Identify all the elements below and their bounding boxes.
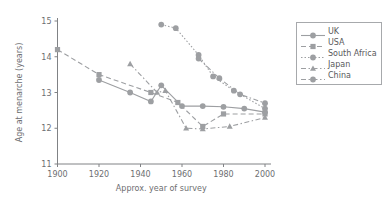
legend-item-label: UK <box>326 26 339 37</box>
x-tick-label: 2000 <box>255 170 275 179</box>
series-point <box>173 25 179 31</box>
series-point <box>241 106 247 112</box>
legend-item-japan[interactable]: Japan <box>300 59 377 70</box>
legend-marker <box>310 77 316 83</box>
series-china <box>196 56 268 106</box>
series-point <box>210 74 216 80</box>
x-tick-label: 1980 <box>213 170 233 179</box>
x-tick-label: 1960 <box>172 170 192 179</box>
legend-key-circle-icon <box>300 48 326 59</box>
legend-item-label: USA <box>326 37 345 48</box>
y-tick-label: 13 <box>41 89 51 98</box>
series-line <box>199 59 265 104</box>
series-point <box>227 123 233 128</box>
y-tick-label: 14 <box>41 53 51 62</box>
series-point <box>221 111 226 116</box>
y-axis-ticks: 1112131415 <box>41 17 57 169</box>
series-south-africa <box>158 22 268 112</box>
x-axis-ticks: 190019201940196019802000 <box>47 164 275 179</box>
series-point <box>158 22 164 28</box>
series-point <box>175 100 180 105</box>
series-japan <box>127 61 268 131</box>
x-tick-label: 1920 <box>89 170 109 179</box>
series-point <box>262 100 268 106</box>
series-point <box>148 90 153 95</box>
legend-item-usa[interactable]: USA <box>300 37 377 48</box>
series-point <box>162 88 168 93</box>
legend-item-label: China <box>326 70 351 81</box>
legend-item-label: Japan <box>326 59 350 70</box>
legend-item-uk[interactable]: UK <box>300 26 377 37</box>
legend-key-triangle-icon <box>300 59 326 70</box>
y-axis-title: Age at menarche (years) <box>15 43 24 143</box>
legend-key-square-icon <box>300 37 326 48</box>
legend-key-circle-icon <box>300 70 326 81</box>
y-tick-label: 12 <box>41 124 51 133</box>
x-axis-title: Approx. year of survey <box>116 184 207 193</box>
series-point <box>96 77 102 83</box>
x-tick-label: 1900 <box>47 170 67 179</box>
series-point <box>237 91 243 97</box>
series-point <box>262 106 268 112</box>
x-tick-label: 1940 <box>130 170 150 179</box>
series-point <box>55 47 60 52</box>
y-tick-label: 15 <box>41 17 51 26</box>
legend-item-china[interactable]: China <box>300 70 377 81</box>
series-point <box>200 103 206 109</box>
series-point <box>221 104 227 110</box>
series-point <box>96 72 101 77</box>
chart-legend: UKUSASouth AfricaJapanChina <box>296 22 382 85</box>
series-point <box>127 61 133 66</box>
legend-item-south-africa[interactable]: South Africa <box>300 48 377 59</box>
legend-item-label: South Africa <box>326 48 377 59</box>
series-point <box>127 90 133 96</box>
series-point <box>148 99 154 105</box>
series-point <box>216 75 222 81</box>
legend-key-circle-icon <box>300 26 326 37</box>
series-point <box>196 56 202 62</box>
series-line <box>161 25 265 109</box>
y-tick-label: 11 <box>41 160 51 169</box>
series-point <box>158 82 164 88</box>
